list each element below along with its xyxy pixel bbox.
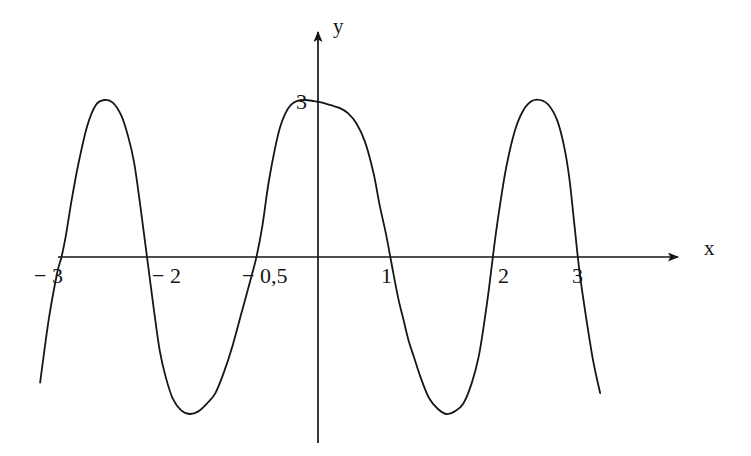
x-tick-label-minus-3: − 3	[34, 265, 63, 287]
y-axis-label: y	[333, 16, 344, 37]
plot-canvas	[0, 0, 751, 456]
x-tick-label-1: 1	[381, 265, 392, 287]
y-tick-label-3: 3	[296, 91, 307, 113]
x-axis-label: x	[704, 238, 715, 259]
x-tick-label-minus-0-5: − 0,5	[242, 265, 287, 287]
x-tick-label-2: 2	[498, 265, 509, 287]
graph-figure: x y 3 − 3 − 2 − 0,5 1 2 3	[0, 0, 751, 456]
x-tick-label-3: 3	[572, 265, 583, 287]
x-tick-label-minus-2: − 2	[152, 265, 181, 287]
